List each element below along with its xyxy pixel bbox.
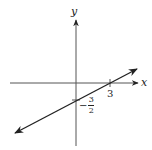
fraction-numerator: 3: [89, 96, 94, 104]
graph-figure: y x 3 − 3 2: [0, 0, 152, 150]
x-intercept-label: 3: [107, 89, 113, 99]
y-axis-label: y: [71, 6, 77, 17]
coordinate-plane: [0, 0, 152, 150]
fraction-denominator: 2: [89, 107, 94, 115]
y-intercept-label: − 3 2: [79, 96, 94, 115]
x-axis-label: x: [141, 77, 147, 88]
minus-sign: −: [79, 100, 87, 111]
